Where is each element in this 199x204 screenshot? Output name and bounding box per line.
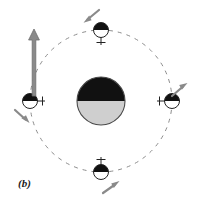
central-body (77, 77, 125, 125)
orbit-diagram-canvas (0, 0, 199, 204)
spin-axis-arrow (29, 29, 40, 96)
satellite-top (94, 23, 109, 46)
satellite-right (157, 94, 180, 109)
velocity-arrow-bottom (103, 181, 120, 193)
figure-panel-b: (b) (0, 0, 199, 204)
satellite-bottom-dark-half (94, 165, 109, 173)
velocity-arrow-left (15, 110, 30, 123)
velocity-arrow-right (172, 83, 188, 96)
figure-panel-label: (b) (18, 178, 31, 189)
satellite-bottom (94, 157, 109, 180)
velocity-arrow-top (84, 10, 100, 23)
satellite-top-dark-half (94, 23, 109, 31)
